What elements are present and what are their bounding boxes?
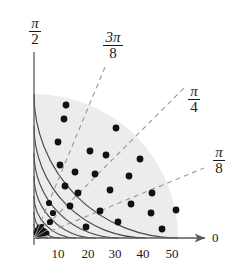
angle-label-pi-over-8: π 8 (204, 145, 234, 176)
radial-tick-30: 30 (103, 246, 127, 262)
radial-tick-50: 50 (160, 246, 184, 262)
data-point (62, 183, 69, 190)
data-point (83, 224, 90, 231)
data-point (67, 203, 74, 210)
data-point (126, 173, 133, 180)
data-point (149, 190, 156, 197)
data-point (63, 102, 70, 109)
data-point (113, 125, 120, 132)
pi-over-8-denominator: 8 (213, 160, 225, 176)
three-pi-over-8-numerator: 3π (103, 30, 122, 45)
radial-tick-20: 20 (76, 246, 100, 262)
data-point (97, 208, 104, 215)
data-point (107, 187, 114, 194)
data-point (46, 200, 52, 206)
three-pi-over-8-denominator: 8 (103, 45, 122, 61)
angle-label-pi-over-2: π 2 (20, 16, 50, 47)
data-point (50, 210, 56, 216)
data-point (87, 148, 94, 155)
data-point (137, 156, 144, 163)
data-point (92, 171, 99, 178)
pi-over-4-denominator: 4 (188, 99, 200, 115)
data-point (128, 201, 135, 208)
data-point (61, 116, 68, 123)
data-point (75, 190, 82, 197)
pi-over-2-numerator: π (29, 16, 41, 31)
data-point (159, 226, 166, 233)
angle-label-zero: 0 (212, 230, 219, 246)
angle-label-three-pi-over-8: 3π 8 (95, 30, 131, 61)
pi-over-2-denominator: 2 (29, 31, 41, 47)
data-point (173, 207, 180, 214)
radial-tick-10: 10 (46, 246, 70, 262)
data-point (57, 162, 64, 169)
angle-label-pi-over-4: π 4 (179, 84, 209, 115)
polar-grid-figure: π 2 3π 8 π 4 π 8 0 10 20 30 40 50 (0, 0, 245, 275)
data-point (148, 210, 155, 217)
data-point (55, 139, 62, 146)
data-point (103, 152, 110, 159)
radial-tick-40: 40 (131, 246, 155, 262)
pi-over-8-numerator: π (213, 145, 225, 160)
pi-over-4-numerator: π (188, 84, 200, 99)
data-point (72, 169, 79, 176)
data-point (47, 219, 53, 225)
data-point (115, 219, 122, 226)
